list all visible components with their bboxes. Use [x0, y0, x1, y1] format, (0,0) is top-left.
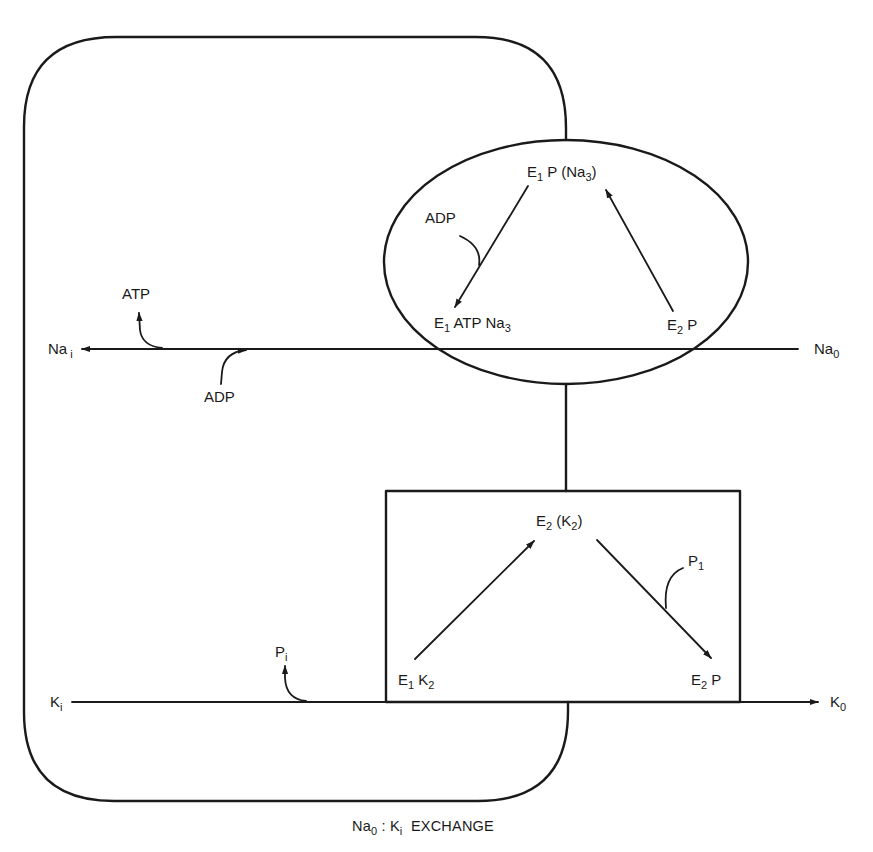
label-e1-atp-na3: E1 ATP Na3 [434, 315, 511, 330]
label-text: E [667, 316, 677, 333]
caption-text: K [390, 818, 400, 834]
label-text: ) [592, 163, 597, 180]
label-e2p-box: E2 P [691, 672, 721, 687]
label-text: P (Na [543, 163, 585, 180]
label-text: E [434, 314, 444, 331]
label-p1: P1 [688, 553, 704, 568]
label-text: ) [577, 512, 582, 529]
label-sub: 1 [698, 560, 704, 572]
label-e1p-na3: E1 P (Na3) [527, 164, 597, 179]
label-text: ATP Na [450, 314, 504, 331]
label-text: K [414, 671, 428, 688]
label-text: E [691, 671, 701, 688]
adp-branch-arrow [221, 350, 246, 384]
label-sub: i [60, 701, 62, 713]
label-text: E [527, 163, 537, 180]
exchange-diagram [0, 0, 873, 852]
label-sub: 3 [505, 322, 511, 334]
label-adp-na: ADP [204, 389, 235, 404]
label-text: K [50, 693, 60, 710]
label-sub: i [70, 348, 72, 360]
label-p-i: Pi [275, 644, 287, 659]
arrow-e1k2-to-e2k2 [415, 541, 534, 659]
label-adp-circle: ADP [425, 210, 456, 225]
caption-text: EXCHANGE [402, 818, 493, 834]
atp-branch-arrow [139, 313, 162, 348]
label-e1-k2: E1 K2 [398, 672, 434, 687]
label-text: E [536, 512, 546, 529]
label-sub: 2 [428, 679, 434, 691]
label-atp: ATP [122, 286, 150, 301]
pi-branch-arrow [285, 666, 306, 701]
label-na-0: Na0 [814, 341, 839, 356]
label-k-0: K0 [830, 694, 846, 709]
arrow-e2p-to-e1p [606, 190, 673, 311]
label-sub: 0 [840, 701, 846, 713]
label-k-i: Ki [50, 694, 62, 709]
label-text: E [398, 671, 408, 688]
label-text: P [683, 316, 697, 333]
label-e2p-circle: E2 P [667, 317, 697, 332]
label-text: (K [552, 512, 571, 529]
label-sub: 0 [833, 348, 839, 360]
label-text: P [275, 643, 285, 660]
label-text: P [688, 552, 698, 569]
caption-text: : [377, 818, 390, 834]
label-text: K [830, 693, 840, 710]
label-e2-k2: E2 (K2) [536, 513, 582, 528]
label-sub: i [285, 651, 287, 663]
label-text: Na [48, 340, 67, 357]
caption-text: Na [352, 818, 371, 834]
p1-side-curve [666, 568, 683, 608]
arrow-e1p-to-e1atp [455, 186, 528, 307]
label-text: Na [814, 340, 833, 357]
figure-caption: Na0 : Ki EXCHANGE [352, 819, 494, 834]
label-na-i: Nai [48, 341, 73, 356]
adp-side-curve [460, 236, 479, 265]
label-text: P [707, 671, 721, 688]
